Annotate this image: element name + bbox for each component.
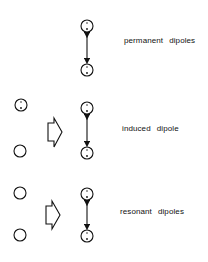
- label-word: permanent: [124, 36, 163, 45]
- label-word: resonant: [120, 207, 152, 216]
- label-resonant-dipoles: resonantdipoles: [120, 207, 184, 216]
- source-nonpolar-molecule: [14, 145, 26, 157]
- label-induced-dipole: induceddipole: [122, 124, 179, 133]
- label-permanent-dipoles: permanentdipoles: [124, 36, 195, 45]
- label-word: dipole: [157, 124, 179, 133]
- source-dipole-molecule: [15, 99, 27, 111]
- block-arrow-icon: [48, 118, 62, 147]
- permanent-dipoles-group: [81, 20, 93, 76]
- dipole-molecule-bottom: [81, 64, 93, 76]
- label-word: induced: [122, 124, 151, 133]
- resonant-dipoles-group: [14, 187, 93, 242]
- source-nonpolar-molecule: [14, 187, 26, 199]
- block-arrow-icon: [46, 201, 60, 229]
- label-word: dipoles: [158, 207, 184, 216]
- induced-dipole-group: [14, 99, 93, 159]
- label-word: dipoles: [169, 36, 195, 45]
- dipole-molecule-top: [81, 20, 93, 32]
- dipole-molecule-bottom: [81, 230, 93, 242]
- source-nonpolar-molecule: [14, 229, 26, 241]
- dipole-molecule-top: [81, 188, 93, 200]
- dipole-molecule-bottom: [81, 147, 93, 159]
- dipole-molecule-top: [81, 102, 93, 114]
